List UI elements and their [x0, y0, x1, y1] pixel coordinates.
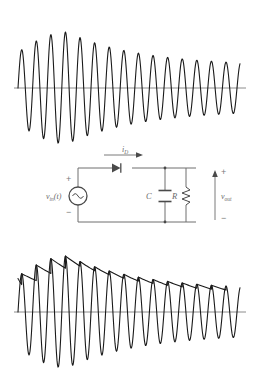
- node-dot-cap-bottom: [164, 221, 167, 224]
- diode-icon: [112, 164, 121, 173]
- figure-root: vin(t) + − iD C R vout + −: [0, 0, 261, 368]
- diode-current-label: iD: [122, 145, 128, 155]
- source-plus-sign: +: [66, 174, 71, 184]
- output-label: vout: [221, 192, 232, 202]
- source-minus-sign: −: [66, 207, 71, 217]
- node-dot-cap-top: [164, 167, 167, 170]
- circuit-diagram: vin(t) + − iD C R vout + −: [0, 145, 261, 245]
- output-arrow-head-icon: [212, 170, 218, 177]
- output-plus-sign: +: [221, 167, 226, 177]
- input-waveform-panel: [0, 0, 261, 150]
- source-label: vin(t): [46, 192, 62, 202]
- current-arrow-head-icon: [136, 152, 143, 158]
- resistor-label: R: [171, 191, 178, 201]
- output-waveform-panel: [0, 240, 261, 368]
- capacitor-label: C: [146, 191, 152, 201]
- output-minus-sign: −: [221, 213, 226, 223]
- sine-glyph-icon: [73, 194, 84, 199]
- resistor-icon: [182, 187, 190, 205]
